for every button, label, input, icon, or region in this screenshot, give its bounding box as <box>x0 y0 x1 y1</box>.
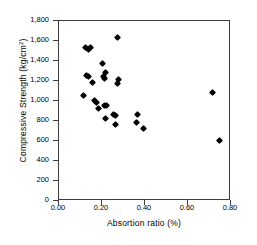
y-axis-tick-label: 600 <box>36 136 49 144</box>
y-axis-tick <box>53 60 58 61</box>
data-point <box>102 114 109 121</box>
y-axis-tick <box>53 180 58 181</box>
y-axis-title-exponent: 2 <box>18 41 24 45</box>
y-axis-tick-label: 1,400 <box>30 56 49 64</box>
y-axis-title: Compressive Strength (kg/cm2) <box>18 5 29 195</box>
plot-area <box>58 20 230 200</box>
x-axis-tick-label: 0.60 <box>167 203 207 212</box>
y-axis-tick-label: 1,200 <box>30 76 49 84</box>
y-axis-tick <box>53 40 58 41</box>
x-axis-tick-label: 0.00 <box>38 203 78 212</box>
data-point <box>112 112 119 119</box>
y-axis-title-base: Compressive Strength (kg/cm <box>18 45 28 162</box>
data-point <box>209 88 216 95</box>
y-axis-tick-label: 400 <box>36 156 49 164</box>
data-point <box>80 92 87 99</box>
data-point <box>89 79 96 86</box>
y-axis-tick <box>53 140 58 141</box>
y-axis-tick <box>53 160 58 161</box>
scatter-chart-figure: 02004006008001,0001,2001,4001,6001,800 0… <box>0 0 257 245</box>
x-axis-tick-label: 0.40 <box>124 203 164 212</box>
data-point <box>114 33 121 40</box>
data-point <box>140 124 147 131</box>
y-axis-tick <box>53 120 58 121</box>
x-axis-tick-label: 0.20 <box>81 203 121 212</box>
y-axis-tick-label: 200 <box>36 176 49 184</box>
y-axis-tick-label: 1,000 <box>30 96 49 104</box>
y-axis-tick <box>53 100 58 101</box>
y-axis-tick <box>53 20 58 21</box>
x-axis-title: Absortion ratio (%) <box>58 218 230 228</box>
x-axis-tick-label: 0.80 <box>210 203 250 212</box>
y-axis-tick-label: 800 <box>36 116 49 124</box>
data-point <box>112 120 119 127</box>
data-point <box>133 119 140 126</box>
data-point <box>134 110 141 117</box>
data-point <box>98 59 105 66</box>
y-axis-tick-label: 1,800 <box>30 16 49 24</box>
data-point <box>216 136 223 143</box>
y-axis-tick-label: 1,600 <box>30 36 49 44</box>
y-axis-tick <box>53 80 58 81</box>
y-axis-title-tail: ) <box>18 38 28 41</box>
